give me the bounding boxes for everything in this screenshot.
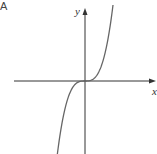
y-axis-arrow-icon xyxy=(83,8,88,15)
cubic-graph xyxy=(0,0,157,154)
x-axis-arrow-icon xyxy=(149,79,156,84)
x-axis-label: x xyxy=(152,86,157,97)
y-axis-label: y xyxy=(75,6,80,17)
